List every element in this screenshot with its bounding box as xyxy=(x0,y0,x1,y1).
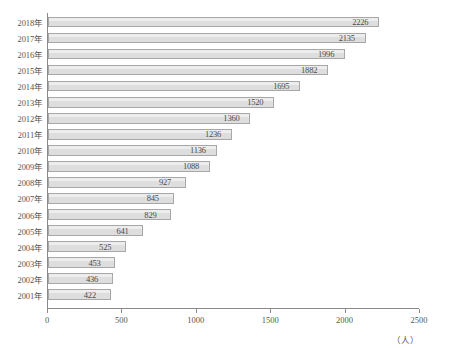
x-axis-tick-label: 1000 xyxy=(187,315,204,325)
y-axis-tick-label: 2006年 xyxy=(17,209,43,221)
y-axis-tick-label: 2007年 xyxy=(17,192,43,204)
x-axis-tick xyxy=(47,309,48,313)
bar-value-label: 1520 xyxy=(247,97,263,107)
bar-value-label: 1360 xyxy=(223,113,239,123)
bar-row: 2001年422 xyxy=(47,287,419,303)
chart-page: 2018年22262017年21352016年19962015年18822014… xyxy=(0,0,464,348)
bar xyxy=(48,33,366,44)
y-axis-tick-label: 2008年 xyxy=(17,176,43,188)
bar-value-label: 1088 xyxy=(183,161,199,171)
bar-value-label: 525 xyxy=(99,242,111,252)
y-axis-tick-label: 2011年 xyxy=(18,128,43,140)
bar-row: 2015年1882 xyxy=(47,62,419,78)
bar xyxy=(48,225,143,236)
y-axis-tick-label: 2001年 xyxy=(17,289,43,301)
y-axis-tick-label: 2009年 xyxy=(17,160,43,172)
bar xyxy=(48,273,113,284)
bar xyxy=(48,49,345,60)
y-axis-tick-label: 2012年 xyxy=(17,112,43,124)
bar-value-label: 453 xyxy=(88,258,100,268)
bar-value-label: 1882 xyxy=(301,65,317,75)
bar xyxy=(48,113,250,124)
bar-value-label: 845 xyxy=(147,193,159,203)
bar-row: 2013年1520 xyxy=(47,94,419,110)
bar-row: 2006年829 xyxy=(47,207,419,223)
bar xyxy=(48,17,379,28)
bar-row: 2012年1360 xyxy=(47,110,419,126)
bar xyxy=(48,241,126,252)
bar-row: 2009年1088 xyxy=(47,158,419,174)
x-axis-tick-label: 2000 xyxy=(336,315,353,325)
x-axis-line xyxy=(47,308,419,309)
y-axis-tick-label: 2004年 xyxy=(17,241,43,253)
bar-value-label: 1996 xyxy=(318,49,334,59)
bar xyxy=(48,257,115,268)
x-axis-unit-label: （人） xyxy=(392,333,419,345)
bar xyxy=(48,65,328,76)
bar-value-label: 927 xyxy=(159,177,171,187)
bar xyxy=(48,81,300,92)
y-axis-tick-label: 2010年 xyxy=(17,144,43,156)
bar-row: 2011年1236 xyxy=(47,126,419,142)
bar-row: 2017年2135 xyxy=(47,30,419,46)
y-axis-tick-label: 2016年 xyxy=(17,48,43,60)
y-axis-tick-label: 2017年 xyxy=(17,32,43,44)
bar-value-label: 2135 xyxy=(339,33,355,43)
x-axis-tick xyxy=(196,309,197,313)
bar-row: 2016年1996 xyxy=(47,46,419,62)
bar-row: 2004年525 xyxy=(47,239,419,255)
x-axis-tick-label: 500 xyxy=(115,315,128,325)
x-axis-tick xyxy=(121,309,122,313)
y-axis-tick-label: 2014年 xyxy=(17,80,43,92)
bar-row: 2005年641 xyxy=(47,223,419,239)
x-axis-tick-label: 0 xyxy=(45,315,49,325)
x-axis-tick-label: 1500 xyxy=(262,315,279,325)
bar-row: 2002年436 xyxy=(47,271,419,287)
bar xyxy=(48,97,274,108)
bar-value-label: 1136 xyxy=(190,145,206,155)
x-axis-tick xyxy=(345,309,346,313)
bar-row: 2003年453 xyxy=(47,255,419,271)
bar-value-label: 1236 xyxy=(205,129,221,139)
bar-row: 2008年927 xyxy=(47,174,419,190)
x-axis-tick xyxy=(270,309,271,313)
bar-row: 2007年845 xyxy=(47,190,419,206)
x-axis-tick-label: 2500 xyxy=(411,315,428,325)
bar-value-label: 422 xyxy=(84,290,96,300)
bar-value-label: 829 xyxy=(144,210,156,220)
y-axis-tick-label: 2002年 xyxy=(17,273,43,285)
bar-row: 2018年2226 xyxy=(47,14,419,30)
bar-value-label: 1695 xyxy=(273,81,289,91)
y-axis-tick-label: 2015年 xyxy=(17,64,43,76)
bar-value-label: 436 xyxy=(86,274,98,284)
y-axis-tick-label: 2005年 xyxy=(17,225,43,237)
plot-area: 2018年22262017年21352016年19962015年18822014… xyxy=(47,13,419,309)
bar-value-label: 2226 xyxy=(352,17,368,27)
bar-row: 2010年1136 xyxy=(47,142,419,158)
y-axis-tick-label: 2003年 xyxy=(17,257,43,269)
bar xyxy=(48,289,111,300)
y-axis-tick-label: 2018年 xyxy=(17,16,43,28)
bar-value-label: 641 xyxy=(116,226,128,236)
x-axis-tick xyxy=(419,309,420,313)
bar-row: 2014年1695 xyxy=(47,78,419,94)
y-axis-tick-label: 2013年 xyxy=(17,96,43,108)
